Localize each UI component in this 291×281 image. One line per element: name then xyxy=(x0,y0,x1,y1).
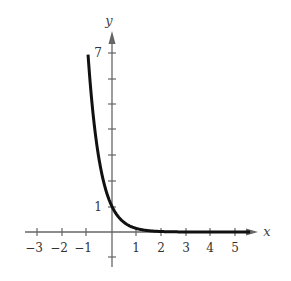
x-tick-label: −2 xyxy=(50,241,68,255)
y-tick-label: 7 xyxy=(94,46,102,60)
x-axis: −3 −2 −1 1 2 3 4 5 x xyxy=(25,224,271,255)
x-tick-label: 5 xyxy=(231,241,239,255)
chart-canvas: −3 −2 −1 1 2 3 4 5 x 7 1 y xyxy=(0,0,291,281)
x-tick-label: 1 xyxy=(132,241,140,255)
x-axis-label: x xyxy=(263,224,271,239)
y-axis-arrow-icon xyxy=(109,31,116,44)
y-tick-label: 1 xyxy=(94,200,102,214)
x-tick-label: 4 xyxy=(206,241,214,255)
x-tick-label: −3 xyxy=(25,241,43,255)
x-tick-label: −1 xyxy=(74,241,92,255)
y-axis-label: y xyxy=(104,13,113,28)
x-tick-label: 3 xyxy=(182,241,190,255)
x-tick-label: 2 xyxy=(157,241,165,255)
